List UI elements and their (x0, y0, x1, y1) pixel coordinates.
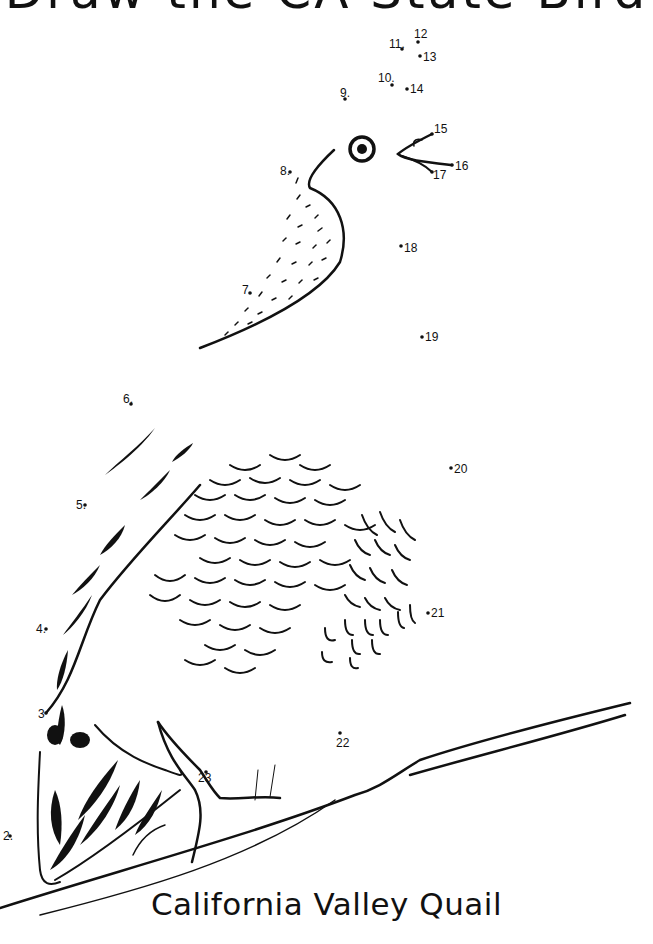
dot-number-label: 23 (198, 771, 212, 785)
dot-number-label: 11. (389, 37, 405, 51)
dot-number-label: 18 (404, 241, 418, 255)
caption: California Valley Quail (0, 886, 653, 922)
dot-number-label: 4. (36, 622, 46, 636)
dot-point (450, 163, 454, 167)
dot-number-label: 5. (76, 498, 86, 512)
dot-number-label: 6. (123, 392, 133, 406)
dot-number-label: 16 (455, 159, 469, 173)
dot-point (449, 466, 453, 470)
dot-number-label: 7. (242, 283, 252, 297)
dot-point (44, 711, 48, 715)
dot-point (338, 731, 342, 735)
dot-point (420, 335, 424, 339)
dot-number-label: 14 (410, 82, 424, 96)
dot-point (405, 87, 409, 91)
dot-number-label: 8. (280, 164, 290, 178)
dot-point (418, 54, 422, 58)
numbered-dots: 2.34.5.6.7.8.9.10.11.1213141516171819202… (3, 27, 469, 843)
dot-point (399, 244, 403, 248)
dot-point (426, 611, 430, 615)
dot-number-label: 22 (336, 736, 350, 750)
dot-number-label: 2. (3, 829, 13, 843)
dot-number-label: 21 (431, 606, 445, 620)
dot-number-label: 3 (38, 707, 45, 721)
dot-number-label: 13 (423, 50, 437, 64)
dot-number-label: 10. (378, 71, 395, 85)
dot-number-label: 9. (340, 86, 350, 100)
dot-number-label: 20 (454, 462, 468, 476)
dot-number-label: 12 (414, 27, 428, 41)
quail-dot-to-dot-drawing: 2.34.5.6.7.8.9.10.11.1213141516171819202… (0, 0, 653, 944)
dot-number-label: 19 (425, 330, 439, 344)
dot-number-label: 17 (433, 168, 447, 182)
dot-number-label: 15 (434, 122, 448, 136)
